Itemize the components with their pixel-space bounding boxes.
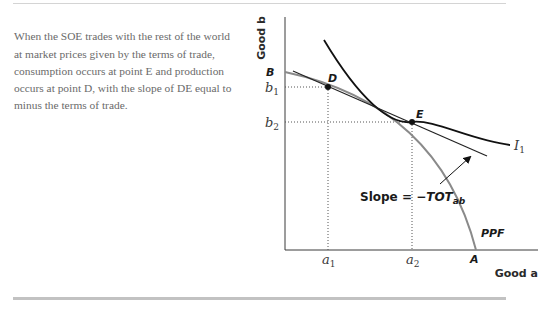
slope-annotation: Slope = −TOTab — [360, 190, 466, 206]
x-axis-title: Good a — [495, 267, 538, 280]
slope-arrow — [440, 157, 470, 184]
point-e-marker — [409, 119, 415, 125]
indifference-curve — [324, 40, 510, 145]
ppf-label: PPF — [481, 227, 505, 240]
point-d-label: D — [328, 72, 337, 85]
tick-a2: a2 — [406, 252, 420, 269]
terms-of-trade-line — [293, 71, 487, 156]
tick-b2: b2 — [265, 115, 279, 132]
point-a-label: A — [469, 253, 479, 266]
trade-equilibrium-diagram: Good b Good a B D E A b1 b2 a1 a2 I1 PPF… — [0, 0, 558, 310]
point-e-label: E — [416, 108, 424, 121]
tick-b1: b1 — [265, 80, 279, 97]
indifference-curve-label: I1 — [513, 138, 525, 155]
bottom-rule — [13, 297, 506, 300]
point-b-label: B — [266, 66, 274, 79]
y-axis-title: Good b — [255, 16, 268, 60]
tick-a1: a1 — [322, 252, 336, 269]
ppf-curve — [285, 72, 476, 250]
